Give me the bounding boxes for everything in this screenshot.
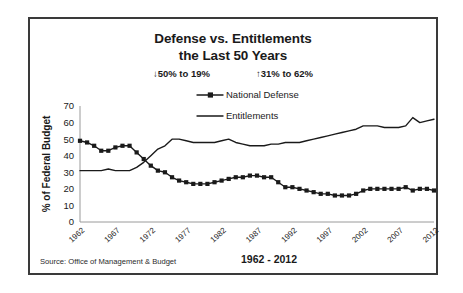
series-marker	[389, 187, 393, 191]
series-marker	[255, 174, 259, 178]
series-marker	[397, 187, 401, 191]
series-marker	[99, 149, 103, 153]
series-marker	[290, 185, 294, 189]
series-marker	[262, 175, 266, 179]
x-axis-tick-1962: 1962	[67, 225, 87, 244]
series-marker	[347, 193, 351, 197]
x-axis-title: 1962 - 2012	[241, 253, 297, 265]
series-marker	[184, 180, 188, 184]
series-marker	[297, 187, 301, 191]
series-marker	[156, 169, 160, 173]
series-marker	[120, 144, 124, 148]
series-marker	[404, 185, 408, 189]
series-marker	[354, 192, 358, 196]
series-marker	[418, 187, 422, 191]
chart-card: Defense vs. Entitlements the Last 50 Yea…	[28, 17, 438, 275]
series-marker	[198, 182, 202, 186]
y-axis-tick-30: 30	[63, 167, 74, 178]
series-marker	[361, 188, 365, 192]
series-marker	[276, 180, 280, 184]
series-marker	[425, 187, 429, 191]
series-marker	[205, 182, 209, 186]
series-marker	[127, 144, 131, 148]
series-marker	[312, 190, 316, 194]
x-axis-tick-1997: 1997	[315, 225, 335, 244]
series-marker	[411, 188, 415, 192]
y-axis-tick-70: 70	[63, 100, 74, 111]
source-note: Source: Office of Management & Budget	[40, 257, 176, 266]
series-marker	[149, 164, 153, 168]
x-axis-tick-1982: 1982	[209, 225, 229, 244]
series-marker	[340, 193, 344, 197]
x-axis-tick-1987: 1987	[244, 225, 264, 244]
series-line-entitlements	[80, 118, 434, 171]
series-marker	[241, 175, 245, 179]
y-axis-tick-20: 20	[63, 183, 74, 194]
series-marker	[333, 193, 337, 197]
x-axis-tick-1977: 1977	[173, 225, 193, 244]
series-marker	[170, 175, 174, 179]
series-marker	[382, 187, 386, 191]
y-axis-tick-40: 40	[63, 150, 74, 161]
line-chart-svg: 010203040506070% of Federal Budget196219…	[30, 19, 440, 277]
series-marker	[269, 175, 273, 179]
x-axis-tick-1992: 1992	[279, 225, 299, 244]
plot-area: 010203040506070% of Federal Budget196219…	[30, 19, 440, 277]
series-marker	[227, 177, 231, 181]
series-marker	[177, 178, 181, 182]
x-axis-tick-2012: 2012	[421, 225, 440, 244]
series-marker	[375, 187, 379, 191]
y-axis-tick-50: 50	[63, 134, 74, 145]
series-line-national-defense	[80, 141, 434, 196]
y-axis-tick-10: 10	[63, 200, 74, 211]
legend-item-entitlements-label: Entitlements	[226, 110, 279, 121]
series-marker	[319, 192, 323, 196]
x-axis-tick-2007: 2007	[386, 225, 406, 244]
x-axis-tick-2002: 2002	[350, 225, 370, 244]
series-marker	[78, 139, 82, 143]
y-axis-tick-0: 0	[69, 216, 74, 227]
series-marker	[248, 174, 252, 178]
y-axis-tick-60: 60	[63, 117, 74, 128]
legend-item-national-defense-marker	[208, 92, 213, 97]
series-marker	[234, 175, 238, 179]
series-marker	[304, 188, 308, 192]
legend-item-national-defense-label: National Defense	[226, 89, 299, 100]
y-axis-title: % of Federal Budget	[41, 115, 52, 212]
series-marker	[92, 144, 96, 148]
series-marker	[432, 188, 436, 192]
series-marker	[220, 178, 224, 182]
series-marker	[113, 145, 117, 149]
x-axis-tick-1972: 1972	[138, 225, 158, 244]
series-marker	[135, 150, 139, 154]
series-marker	[106, 149, 110, 153]
series-marker	[163, 170, 167, 174]
series-marker	[283, 185, 287, 189]
series-marker	[212, 180, 216, 184]
series-marker	[191, 182, 195, 186]
series-marker	[326, 192, 330, 196]
series-marker	[368, 187, 372, 191]
x-axis-tick-1967: 1967	[102, 225, 122, 244]
series-marker	[85, 140, 89, 144]
